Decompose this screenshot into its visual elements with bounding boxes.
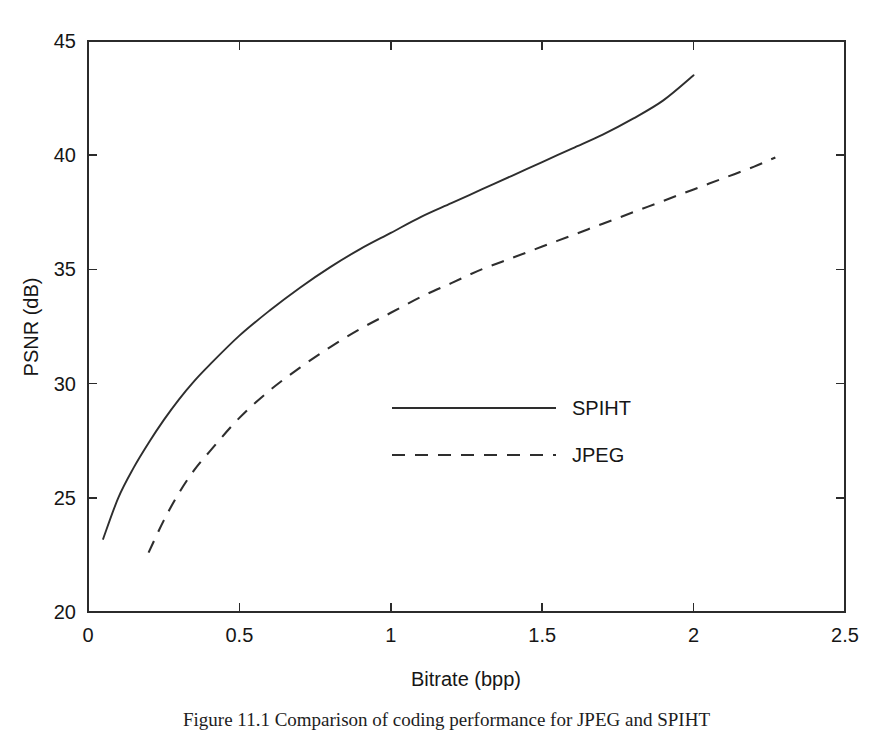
y-tick-label-45: 45 bbox=[54, 30, 76, 52]
y-axis-tick-labels: 202530354045 bbox=[54, 30, 76, 623]
psnr-bitrate-chart: 00.511.522.5 202530354045 Bitrate (bpp) … bbox=[0, 0, 893, 731]
chart-legend: SPIHTJPEG bbox=[392, 397, 631, 466]
x-tick-label-0.5: 0.5 bbox=[225, 624, 253, 646]
series-line-jpeg bbox=[149, 157, 776, 552]
series-line-spiht bbox=[103, 75, 693, 539]
x-tick-label-2.5: 2.5 bbox=[831, 624, 859, 646]
x-axis-tick-labels: 00.511.522.5 bbox=[82, 624, 858, 646]
x-tick-label-0: 0 bbox=[82, 624, 93, 646]
y-tick-label-35: 35 bbox=[54, 258, 76, 280]
x-tick-label-1.5: 1.5 bbox=[528, 624, 556, 646]
x-axis-title: Bitrate (bpp) bbox=[411, 668, 521, 690]
y-tick-label-25: 25 bbox=[54, 487, 76, 509]
y-axis-title: PSNR (dB) bbox=[20, 278, 42, 377]
legend-label-jpeg: JPEG bbox=[572, 444, 624, 466]
data-series-group bbox=[103, 75, 775, 552]
figure-caption: Figure 11.1 Comparison of coding perform… bbox=[0, 709, 893, 731]
figure-container: 00.511.522.5 202530354045 Bitrate (bpp) … bbox=[0, 0, 893, 731]
plot-area-border bbox=[88, 41, 845, 612]
y-axis-ticks bbox=[88, 155, 845, 498]
y-tick-label-30: 30 bbox=[54, 373, 76, 395]
x-axis-ticks bbox=[239, 41, 693, 612]
x-tick-label-2: 2 bbox=[688, 624, 699, 646]
y-tick-label-20: 20 bbox=[54, 601, 76, 623]
legend-label-spiht: SPIHT bbox=[572, 397, 631, 419]
x-tick-label-1: 1 bbox=[385, 624, 396, 646]
y-tick-label-40: 40 bbox=[54, 144, 76, 166]
